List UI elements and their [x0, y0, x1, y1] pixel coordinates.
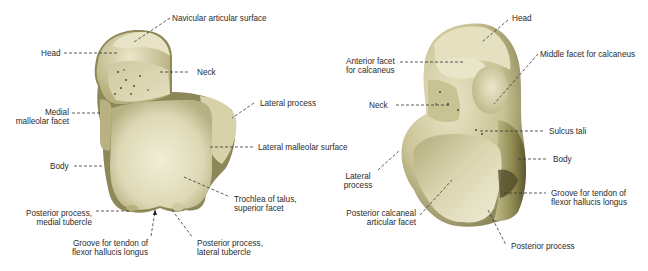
label-navicular-articular-surface: Navicular articular surface — [172, 14, 267, 23]
label-lateral-process-left: Lateral process — [260, 99, 316, 108]
talus-inferior-view — [402, 24, 527, 227]
label-posterior-calcaneal-facet: Posterior calcaneal articular facet — [330, 209, 416, 228]
label-lateral-malleolar-surface: Lateral malleolar surface — [258, 143, 348, 152]
label-posterior-process-lateral-tubercle: Posterior process, lateral tubercle — [197, 239, 263, 258]
label-posterior-process-medial-tubercle: Posterior process, medial tubercle — [10, 209, 92, 228]
label-neck-right: Neck — [369, 101, 388, 110]
label-groove-fhl-right: Groove for tendon of flexor hallucis lon… — [551, 189, 627, 208]
label-head-left: Head — [41, 49, 61, 58]
label-posterior-process-right: Posterior process — [511, 242, 575, 251]
label-trochlea: Trochlea of talus, superior facet — [234, 195, 297, 214]
talus-superior-view — [95, 30, 237, 213]
label-neck-left: Neck — [197, 68, 216, 77]
label-medial-malleolar-facet: Medial malleolar facet — [10, 108, 69, 127]
label-body-left: Body — [50, 162, 69, 171]
talus-figure: Navicular articular surface Head Neck Me… — [0, 0, 648, 271]
label-body-right: Body — [553, 155, 572, 164]
label-head-right: Head — [512, 14, 532, 23]
label-groove-fhl-left: Groove for tendon of flexor hallucis lon… — [60, 239, 148, 258]
label-sulcus-tali: Sulcus tali — [549, 127, 586, 136]
label-middle-facet: Middle facet for calcaneus — [540, 50, 635, 59]
label-lateral-process-right: Lateral process — [340, 172, 376, 191]
label-anterior-facet: Anterior facet for calcaneus — [346, 57, 395, 76]
